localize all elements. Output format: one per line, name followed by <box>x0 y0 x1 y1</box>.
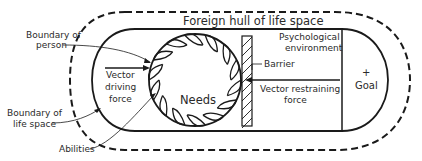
ability-petal-inner <box>203 113 224 116</box>
barrier-hatch-line <box>242 91 252 101</box>
vector-driving-label-3: force <box>109 94 132 104</box>
barrier-hatch-line <box>242 46 252 56</box>
goal-symbol: + <box>362 67 370 78</box>
person-boundary-circle <box>149 34 241 126</box>
vector-driving-label-2: driving <box>105 82 136 92</box>
boundary-life-space-label-1: Boundary of <box>7 108 63 118</box>
vector-driving-label-1: Vector <box>106 70 135 80</box>
barrier-hatch-line <box>242 109 252 119</box>
psych-env-label-2: environment <box>285 43 343 53</box>
life-space-diagram: Foreign hull of life space Boundary of p… <box>0 0 422 161</box>
vector-restraining-label-2: force <box>284 95 307 105</box>
barrier-hatch-line <box>242 100 252 110</box>
barrier-hatch-line <box>242 82 252 92</box>
barrier-label: Barrier <box>264 59 295 69</box>
abilities-label: Abilities <box>59 144 95 154</box>
psych-env-label-1: Psychological <box>279 32 340 42</box>
foreign-hull-label: Foreign hull of life space <box>183 14 324 28</box>
boundary-person-leader <box>63 45 150 62</box>
boundary-life-space-label-2: life space <box>13 119 56 129</box>
barrier-hatch-line <box>242 55 252 65</box>
boundary-person-label-2: person <box>36 40 67 50</box>
goal-label: Goal <box>355 80 378 91</box>
barrier-hatch-line <box>242 64 252 74</box>
vector-restraining-label-1: Vector restraining <box>260 84 340 94</box>
ability-petal-inner <box>166 44 187 47</box>
barrier-hatch-line <box>242 37 252 47</box>
boundary-person-label-1: Boundary of <box>26 30 82 40</box>
barrier-leader <box>252 64 262 70</box>
needs-label: Needs <box>180 93 216 107</box>
restraining-force-arrow <box>245 77 340 83</box>
